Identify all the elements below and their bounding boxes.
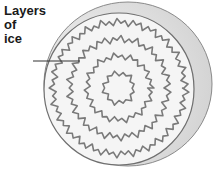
hailstone-illustration <box>0 0 217 172</box>
hailstone-face <box>44 13 194 165</box>
